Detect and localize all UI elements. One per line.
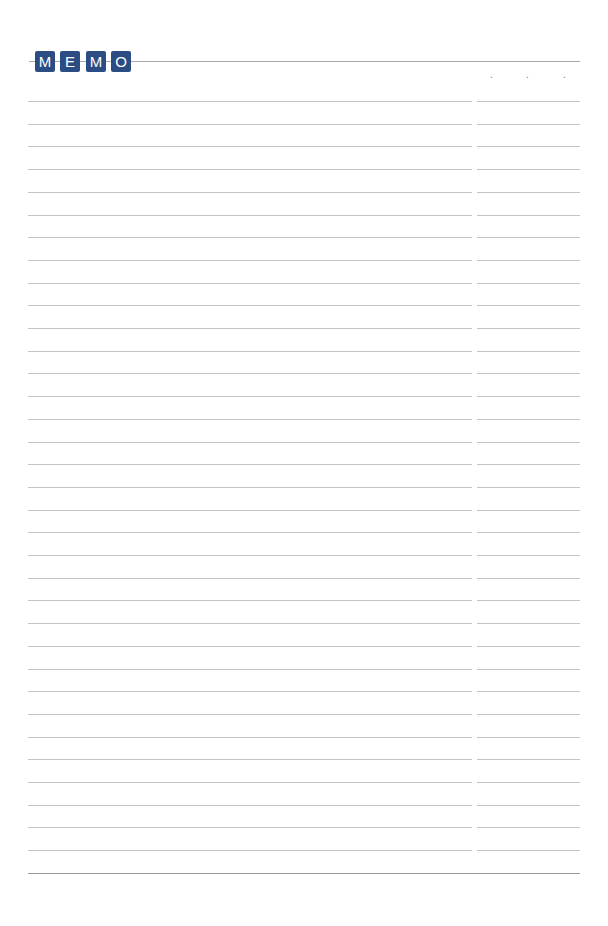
memo-line-side[interactable] bbox=[477, 827, 580, 828]
memo-line-main[interactable] bbox=[28, 850, 472, 851]
memo-line-main[interactable] bbox=[28, 328, 472, 329]
memo-line-side[interactable] bbox=[477, 328, 580, 329]
memo-line-side[interactable] bbox=[477, 442, 580, 443]
memo-line-side[interactable] bbox=[477, 101, 580, 102]
bottom-rule bbox=[28, 873, 580, 874]
memo-line-main[interactable] bbox=[28, 419, 472, 420]
memo-line-side[interactable] bbox=[477, 782, 580, 783]
memo-page: M E M O . . . bbox=[0, 0, 608, 926]
memo-line-side[interactable] bbox=[477, 805, 580, 806]
memo-line-main[interactable] bbox=[28, 737, 472, 738]
memo-line-main[interactable] bbox=[28, 759, 472, 760]
memo-line-side[interactable] bbox=[477, 351, 580, 352]
memo-line-side[interactable] bbox=[477, 759, 580, 760]
memo-line-main[interactable] bbox=[28, 827, 472, 828]
memo-line-side[interactable] bbox=[477, 169, 580, 170]
memo-line-side[interactable] bbox=[477, 464, 580, 465]
memo-line-main[interactable] bbox=[28, 260, 472, 261]
memo-line-main[interactable] bbox=[28, 101, 472, 102]
memo-line-main[interactable] bbox=[28, 169, 472, 170]
memo-line-side[interactable] bbox=[477, 510, 580, 511]
memo-line-side[interactable] bbox=[477, 669, 580, 670]
memo-line-side[interactable] bbox=[477, 623, 580, 624]
title-tile-m2: M bbox=[86, 51, 106, 72]
memo-line-side[interactable] bbox=[477, 578, 580, 579]
date-separator: . bbox=[526, 70, 529, 80]
title-tile-m: M bbox=[35, 51, 55, 72]
date-separator: . bbox=[563, 70, 566, 80]
memo-line-main[interactable] bbox=[28, 124, 472, 125]
memo-line-main[interactable] bbox=[28, 669, 472, 670]
memo-line-side[interactable] bbox=[477, 146, 580, 147]
memo-line-main[interactable] bbox=[28, 215, 472, 216]
memo-line-main[interactable] bbox=[28, 464, 472, 465]
memo-line-main[interactable] bbox=[28, 532, 472, 533]
memo-line-side[interactable] bbox=[477, 305, 580, 306]
memo-line-main[interactable] bbox=[28, 578, 472, 579]
memo-line-main[interactable] bbox=[28, 510, 472, 511]
memo-line-main[interactable] bbox=[28, 192, 472, 193]
memo-line-side[interactable] bbox=[477, 714, 580, 715]
memo-line-side[interactable] bbox=[477, 850, 580, 851]
memo-line-side[interactable] bbox=[477, 691, 580, 692]
memo-line-main[interactable] bbox=[28, 305, 472, 306]
memo-line-main[interactable] bbox=[28, 623, 472, 624]
memo-line-main[interactable] bbox=[28, 646, 472, 647]
memo-line-main[interactable] bbox=[28, 146, 472, 147]
memo-line-side[interactable] bbox=[477, 532, 580, 533]
date-field[interactable]: . . . bbox=[476, 70, 580, 80]
memo-line-main[interactable] bbox=[28, 782, 472, 783]
memo-line-side[interactable] bbox=[477, 237, 580, 238]
date-separator: . bbox=[490, 70, 493, 80]
memo-line-main[interactable] bbox=[28, 237, 472, 238]
memo-line-side[interactable] bbox=[477, 396, 580, 397]
memo-line-main[interactable] bbox=[28, 555, 472, 556]
memo-line-main[interactable] bbox=[28, 373, 472, 374]
memo-line-main[interactable] bbox=[28, 691, 472, 692]
memo-line-side[interactable] bbox=[477, 215, 580, 216]
title-tile-e: E bbox=[60, 51, 80, 72]
memo-line-side[interactable] bbox=[477, 283, 580, 284]
memo-line-side[interactable] bbox=[477, 600, 580, 601]
memo-line-side[interactable] bbox=[477, 124, 580, 125]
memo-line-side[interactable] bbox=[477, 192, 580, 193]
memo-line-side[interactable] bbox=[477, 419, 580, 420]
memo-line-main[interactable] bbox=[28, 805, 472, 806]
memo-line-side[interactable] bbox=[477, 737, 580, 738]
memo-line-main[interactable] bbox=[28, 600, 472, 601]
memo-line-side[interactable] bbox=[477, 373, 580, 374]
memo-line-main[interactable] bbox=[28, 442, 472, 443]
memo-line-side[interactable] bbox=[477, 260, 580, 261]
title-tile-o: O bbox=[111, 51, 131, 72]
memo-line-side[interactable] bbox=[477, 487, 580, 488]
memo-line-main[interactable] bbox=[28, 714, 472, 715]
memo-line-main[interactable] bbox=[28, 283, 472, 284]
memo-line-main[interactable] bbox=[28, 487, 472, 488]
memo-line-main[interactable] bbox=[28, 396, 472, 397]
memo-line-side[interactable] bbox=[477, 646, 580, 647]
memo-line-side[interactable] bbox=[477, 555, 580, 556]
memo-line-main[interactable] bbox=[28, 351, 472, 352]
